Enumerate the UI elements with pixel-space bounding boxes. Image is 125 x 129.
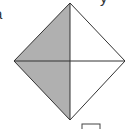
answer-box[interactable] bbox=[82, 124, 100, 129]
label-fragment-right: y bbox=[100, 0, 108, 5]
diamond-figure bbox=[0, 0, 125, 129]
label-fragment-left: a bbox=[0, 6, 2, 21]
